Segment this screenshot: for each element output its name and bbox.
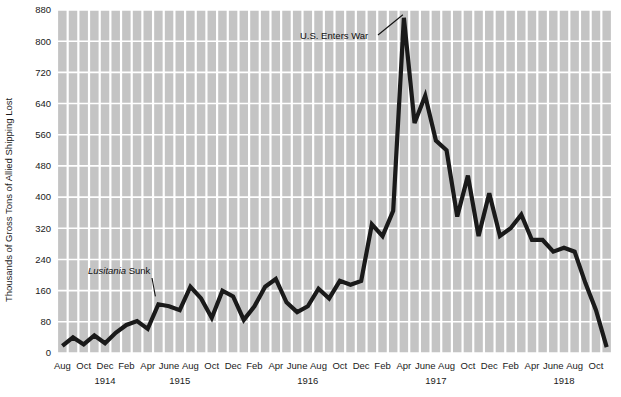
y-axis-tick-labels: 080160240320400480560640720800880 xyxy=(35,4,51,358)
annotation-label-us-enters-war: U.S. Enters War xyxy=(300,30,368,41)
x-axis-month-label: Aug xyxy=(182,360,199,371)
x-axis-month-labels: AugOctDecFebAprJuneAugOctDecFebAprJuneAu… xyxy=(54,360,604,371)
x-axis-month-label: Dec xyxy=(353,360,370,371)
y-axis-tick-label: 480 xyxy=(35,160,51,171)
y-axis-tick-label: 880 xyxy=(35,4,51,15)
y-axis-tick-label: 640 xyxy=(35,98,51,109)
x-axis-month-label: June xyxy=(159,360,180,371)
y-axis-tick-label: 80 xyxy=(40,316,51,327)
y-axis-tick-label: 160 xyxy=(35,285,51,296)
y-axis-tick-label: 720 xyxy=(35,67,51,78)
x-axis-month-label: Oct xyxy=(332,360,347,371)
x-axis-year-label: 1917 xyxy=(425,375,446,386)
y-axis-tick-label: 320 xyxy=(35,223,51,234)
x-axis-month-label: Dec xyxy=(481,360,498,371)
x-axis-month-label: Feb xyxy=(118,360,134,371)
annotation-label-lusitania: Lusitania Sunk xyxy=(88,265,151,276)
y-axis-tick-label: 0 xyxy=(46,347,51,358)
annotation-text-part: Lusitania xyxy=(88,265,126,276)
x-axis-year-label: 1918 xyxy=(553,375,574,386)
x-axis-month-label: Apr xyxy=(268,360,283,371)
x-axis-month-label: Aug xyxy=(438,360,455,371)
x-axis-month-label: Oct xyxy=(589,360,604,371)
x-axis-year-label: 1915 xyxy=(169,375,190,386)
y-axis-tick-label: 400 xyxy=(35,191,51,202)
x-axis-month-label: Oct xyxy=(461,360,476,371)
x-axis-month-label: Aug xyxy=(54,360,71,371)
x-axis-month-label: Aug xyxy=(310,360,327,371)
x-axis-year-label: 1916 xyxy=(297,375,318,386)
x-axis-month-label: Dec xyxy=(97,360,114,371)
x-axis-month-label: June xyxy=(415,360,436,371)
y-axis-tick-label: 800 xyxy=(35,36,51,47)
x-axis-month-label: Aug xyxy=(566,360,583,371)
annotation-text-part: U.S. Enters War xyxy=(300,30,368,41)
x-axis-month-label: June xyxy=(287,360,308,371)
y-axis-title: Thousands of Gross Tons of Allied Shippi… xyxy=(3,98,14,303)
x-axis-year-label: 1914 xyxy=(94,375,115,386)
chart-container: 080160240320400480560640720800880 AugOct… xyxy=(0,0,621,397)
x-axis-month-label: Oct xyxy=(204,360,219,371)
x-axis-month-label: Apr xyxy=(396,360,411,371)
x-axis-month-label: Apr xyxy=(140,360,155,371)
x-axis-month-label: Apr xyxy=(525,360,540,371)
y-axis-title-group: Thousands of Gross Tons of Allied Shippi… xyxy=(3,98,14,303)
x-axis-month-label: Feb xyxy=(502,360,518,371)
x-axis-year-labels: 19141915191619171918 xyxy=(94,375,574,386)
x-axis-month-label: Oct xyxy=(76,360,91,371)
y-axis-tick-label: 560 xyxy=(35,129,51,140)
annotation-text-part: Sunk xyxy=(126,265,151,276)
x-axis-month-label: Feb xyxy=(246,360,262,371)
shipping-losses-line-chart: 080160240320400480560640720800880 AugOct… xyxy=(0,0,621,397)
y-axis-tick-label: 240 xyxy=(35,254,51,265)
x-axis-month-label: June xyxy=(543,360,564,371)
x-axis-month-label: Feb xyxy=(374,360,390,371)
x-axis-month-label: Dec xyxy=(225,360,242,371)
